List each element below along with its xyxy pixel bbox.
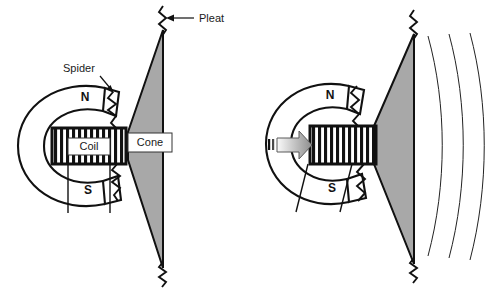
north-pole-label: N <box>81 90 90 104</box>
south-pole-label: S <box>84 183 92 197</box>
voice-coil-driven <box>310 126 376 164</box>
cone-label: Cone <box>137 136 163 148</box>
voice-coil: Coil <box>52 128 126 164</box>
speaker-figure: N S Coil Cone Pleat Spider <box>0 0 501 290</box>
north-pole-label-driven: N <box>326 88 335 102</box>
coil-stripes-driven <box>310 126 376 164</box>
pleat-label: Pleat <box>199 12 224 24</box>
drive-arrow-tail-bar-2 <box>272 139 274 150</box>
spider-label: Spider <box>63 62 95 74</box>
loudspeaker-diagram: N S Coil Cone Pleat Spider <box>0 0 501 290</box>
coil-label: Coil <box>80 140 99 152</box>
cone-label-group: Cone <box>128 133 172 152</box>
south-pole-label-driven: S <box>328 181 336 195</box>
drive-arrow-tail-bar-1 <box>268 139 270 150</box>
